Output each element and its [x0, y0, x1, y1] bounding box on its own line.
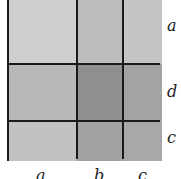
cell-b-d: [77, 64, 123, 121]
column-label-1: a: [36, 166, 46, 179]
cell-c-a: [123, 0, 162, 64]
divider-vertical-1: [76, 0, 78, 159]
row-label-3: c: [167, 128, 176, 147]
divider-horizontal-2: [9, 120, 160, 122]
area-grid: [7, 0, 162, 161]
cell-b-a: [77, 0, 123, 64]
cell-a-d: [9, 64, 77, 121]
cell-a-c: [9, 121, 77, 161]
row-label-2: d: [167, 82, 177, 101]
cell-a-a: [9, 0, 77, 64]
column-label-2: b: [94, 166, 104, 179]
row-label-1: a: [167, 16, 177, 35]
cell-b-c: [77, 121, 123, 161]
cell-c-c: [123, 121, 162, 161]
column-label-3: c: [138, 166, 147, 179]
divider-vertical-2: [122, 0, 124, 159]
cell-c-d: [123, 64, 162, 121]
divider-horizontal-1: [9, 63, 160, 65]
